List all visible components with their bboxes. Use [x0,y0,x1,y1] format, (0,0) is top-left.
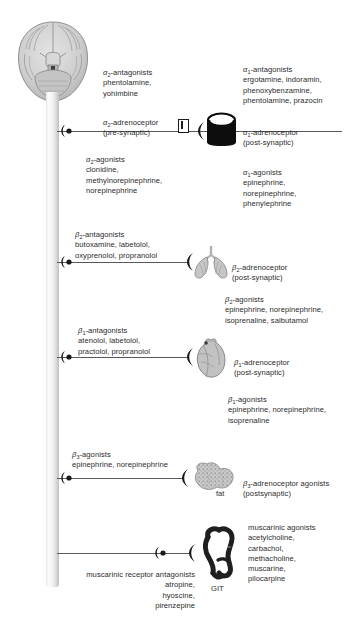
nerve-trunk [46,92,59,587]
branch-line-muscarinic [57,553,190,554]
alpha1-agonists-header: α1-agonists [243,168,353,178]
receptor-pharmacology-figure: α2-antagonistsphentolamine, yohimbine α2… [0,0,360,619]
alpha2-antagonists-header: α2-antagonists [103,68,213,78]
alpha1-agonists-drugs: epinephrine, norepinephrine, phenylephri… [243,178,297,207]
alpha1-receptor-name: α1-adrenoceptor [243,128,343,138]
branch-line-beta1 [57,357,188,358]
beta3-receptor-label: β3-adrenoceptor agonists(postsynaptic) [243,469,358,500]
beta2-agonists-header: β2-agonists [225,295,360,305]
beta1-agonists-text: β1-agonistsepinephrine, norepinephrine, … [228,385,360,426]
muscarinic-antagonists-header: muscarinic receptor antagonists [45,570,195,580]
beta2-agonists-drugs: epinephrine, norepinephrine, isoprenalin… [225,305,323,324]
beta2-antagonists-text: β2-antagonistsbutoxamine, labetolol, oxy… [75,220,215,261]
alpha1-antagonists-header: α1-antagonists [243,65,359,75]
beta3-synapse-type: (postsynaptic) [243,489,291,498]
alpha2-agonists-drugs: clonidine, methylnorepinephrine, norepin… [86,165,162,194]
beta2-synapse-type: (post-synaptic) [232,273,283,282]
varicosity-node-muscarinic [152,546,168,560]
alpha2-antagonists-drugs: phentolamine, yohimbine [103,78,151,97]
muscarinic-antagonists-drugs: atropine, hyoscine, pirenzepine [155,580,195,609]
alpha2-receptor-name: α2-adrenoceptor [103,118,193,128]
beta1-agonists-drugs: epinephrine, norepinephrine, isoprenalin… [228,405,326,424]
beta1-receptor-name: β1-adrenoceptor [234,358,334,368]
alpha1-receptor-label: α1-adrenoceptor(post-synaptic) [243,118,343,149]
alpha2-receptor-label: α2-adrenoceptor(pre-synaptic) [103,108,193,139]
beta1-antagonists-text: β1-antagonistsatenolol, labetolol, pract… [78,316,203,357]
smooth-muscle-cylinder-icon [206,112,237,150]
branch-line-beta2 [57,262,188,263]
varicosity-node-alpha2 [58,124,74,138]
beta3-agonists-header: β3-agonists [72,450,222,460]
alpha2-antagonists-text: α2-antagonistsphentolamine, yohimbine [103,58,213,99]
alpha1-agonists-text: α1-agonistsepinephrine, norepinephrine, … [243,158,353,209]
muscarinic-antagonists-text: muscarinic receptor antagonistsatropine,… [45,560,195,611]
arrowhead-beta3 [176,468,189,488]
beta2-receptor-name: β2-adrenoceptor [232,263,332,273]
fat-organ-label: fat [216,489,224,498]
beta1-antagonists-header: β1-antagonists [78,326,203,336]
branch-line-beta3 [57,478,183,479]
muscarinic-agonists-drugs: acetylcholine, carbachol, methacholine, … [248,533,296,583]
beta1-antagonists-drugs: atenolol, labetolol, practolol, proprano… [78,336,150,355]
beta3-receptor-name: β3-adrenoceptor agonists [243,479,358,489]
beta1-receptor-label: β1-adrenoceptor(post-synaptic) [234,348,334,379]
git-colon-icon [198,525,242,581]
beta1-synapse-type: (post-synaptic) [234,368,285,377]
alpha2-agonists-text: α2-agonistsclonidine, methylnorepinephri… [86,145,206,196]
beta2-antagonists-drugs: butoxamine, labetolol, oxyprenolol, prop… [75,240,157,259]
varicosity-node-beta2 [58,255,74,269]
alpha1-antagonists-drugs: ergotamine, indoramin, phenoxybenzamine,… [243,75,323,104]
varicosity-node-beta1 [58,350,74,364]
beta2-agonists-text: β2-agonistsepinephrine, norepinephrine, … [225,285,360,326]
beta3-agonists-drugs: epinephrine, norepinephrine [72,460,168,469]
beta1-agonists-header: β1-agonists [228,395,360,405]
alpha1-synapse-type: (post-synaptic) [243,138,294,147]
beta2-antagonists-header: β2-antagonists [75,230,215,240]
muscarinic-agonists-header: muscarinic agonists [248,523,358,533]
beta2-receptor-label: β2-adrenoceptor(post-synaptic) [232,253,332,284]
git-organ-label: GIT [211,584,224,593]
arrowhead-alpha2 [192,121,205,141]
alpha1-antagonists-text: α1-antagonistsergotamine, indoramin, phe… [243,55,359,106]
alpha2-agonists-header: α2-agonists [86,155,206,165]
alpha2-synapse-type: (pre-synaptic) [103,128,150,137]
varicosity-node-beta3 [58,471,74,485]
beta3-agonists-text: β3-agonistsepinephrine, norepinephrine [72,440,222,471]
muscarinic-agonists-text: muscarinic agonistsacetylcholine, carbac… [248,513,358,584]
